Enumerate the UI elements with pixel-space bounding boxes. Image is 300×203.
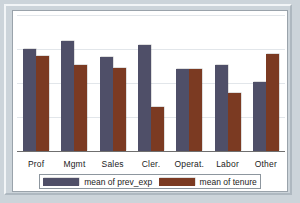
bar-cler-prev-exp[interactable] xyxy=(138,45,151,151)
bar-group xyxy=(61,15,87,151)
legend-swatch-icon-prev-exp xyxy=(43,178,79,186)
chart-card[interactable]: ProfMgmtSalesCler.Operat.LaborOther mean… xyxy=(12,10,288,192)
x-axis-label-prof: Prof xyxy=(17,159,55,169)
bar-prof-prev-exp[interactable] xyxy=(23,49,36,151)
bar-operat-tenure[interactable] xyxy=(189,69,202,151)
x-axis-tick-labels: ProfMgmtSalesCler.Operat.LaborOther xyxy=(17,157,285,171)
x-axis-label-cler: Cler. xyxy=(132,159,170,169)
x-axis-line xyxy=(17,151,285,152)
legend-item-prev-exp[interactable]: mean of prev_exp xyxy=(43,177,152,187)
bar-sales-tenure[interactable] xyxy=(113,68,126,151)
bar-groups xyxy=(17,15,285,151)
x-axis-label-sales: Sales xyxy=(94,159,132,169)
legend-label-prev-exp: mean of prev_exp xyxy=(84,177,152,187)
chart-legend[interactable]: mean of prev_exp mean of tenure xyxy=(39,174,261,189)
legend-swatch-icon-tenure xyxy=(159,178,195,186)
bar-cler-tenure[interactable] xyxy=(151,107,164,151)
bar-prof-tenure[interactable] xyxy=(36,56,49,151)
x-axis-label-labor: Labor xyxy=(209,159,247,169)
legend-label-tenure: mean of tenure xyxy=(200,177,257,187)
bar-labor-tenure[interactable] xyxy=(228,93,241,151)
bar-operat-prev-exp[interactable] xyxy=(176,69,189,151)
x-axis-label-mgmt: Mgmt xyxy=(55,159,93,169)
screenshot-root: ProfMgmtSalesCler.Operat.LaborOther mean… xyxy=(0,0,300,203)
legend-item-tenure[interactable]: mean of tenure xyxy=(159,177,257,187)
bar-sales-prev-exp[interactable] xyxy=(100,57,113,151)
bar-group xyxy=(176,15,202,151)
bar-labor-prev-exp[interactable] xyxy=(215,65,228,151)
bar-group xyxy=(138,15,164,151)
x-axis-label-operat: Operat. xyxy=(170,159,208,169)
bar-group xyxy=(100,15,126,151)
bar-mgmt-prev-exp[interactable] xyxy=(61,41,74,151)
x-axis-label-other: Other xyxy=(247,159,285,169)
bar-group xyxy=(215,15,241,151)
bar-group xyxy=(23,15,49,151)
bar-other-tenure[interactable] xyxy=(266,54,279,151)
bar-group xyxy=(253,15,279,151)
plot-area xyxy=(17,15,285,152)
bar-other-prev-exp[interactable] xyxy=(253,82,266,151)
bar-mgmt-tenure[interactable] xyxy=(74,65,87,151)
